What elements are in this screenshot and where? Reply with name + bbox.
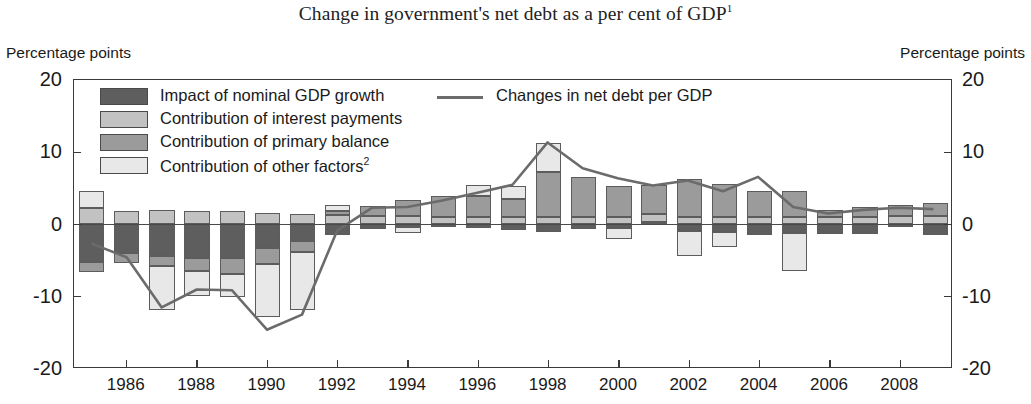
x-tick-label: 2002 — [669, 375, 707, 395]
x-tick — [548, 360, 549, 367]
y-tick-label: -20 — [962, 357, 991, 380]
x-tick-label: 1988 — [177, 375, 215, 395]
y-tick — [944, 224, 951, 225]
legend-label: Impact of nominal GDP growth — [160, 86, 384, 105]
x-tick-label: 1998 — [529, 375, 567, 395]
x-tick — [407, 360, 408, 367]
x-tick — [196, 360, 197, 367]
x-tick — [126, 360, 127, 367]
legend-swatch-icon — [100, 157, 148, 174]
y-tick-label: 10 — [962, 140, 984, 163]
y-tick-label: 20 — [962, 68, 984, 91]
title-footnote-marker: 1 — [727, 2, 733, 14]
x-tick-label: 1994 — [388, 375, 426, 395]
y-tick-label: 0 — [962, 212, 973, 235]
x-tick — [759, 360, 760, 367]
x-tick — [689, 360, 690, 367]
right-axis-caption: Percentage points — [900, 44, 1025, 62]
y-tick — [944, 152, 951, 153]
chart-title: Change in government's net debt as a per… — [0, 2, 1031, 25]
y-tick — [74, 224, 81, 225]
y-tick — [74, 152, 81, 153]
y-tick-label: -10 — [0, 284, 62, 307]
legend-label: Contribution of other factors2 — [160, 155, 369, 176]
legend-label: Contribution of interest payments — [160, 109, 402, 128]
x-tick-label: 2004 — [740, 375, 778, 395]
legend-line-icon — [437, 96, 483, 99]
y-tick-label: 10 — [0, 140, 62, 163]
chart-legend: Impact of nominal GDP growth Contributio… — [100, 86, 800, 178]
left-axis-caption: Percentage points — [6, 44, 131, 62]
y-tick-label: -20 — [0, 357, 62, 380]
x-tick — [478, 360, 479, 367]
x-tick-label: 1996 — [458, 375, 496, 395]
chart-title-text: Change in government's net debt as a per… — [299, 3, 727, 24]
y-tick-label: 20 — [0, 68, 62, 91]
y-tick — [74, 296, 81, 297]
x-tick-label: 2000 — [599, 375, 637, 395]
legend-label: Contribution of primary balance — [160, 132, 389, 151]
x-tick — [337, 360, 338, 367]
x-tick-label: 2008 — [880, 375, 918, 395]
x-tick-label: 1990 — [247, 375, 285, 395]
x-tick-label: 2006 — [810, 375, 848, 395]
legend-swatch-icon — [100, 111, 148, 128]
y-tick — [944, 296, 951, 297]
x-tick-label: 1992 — [318, 375, 356, 395]
x-tick-label: 1986 — [107, 375, 145, 395]
x-tick — [900, 360, 901, 367]
x-tick — [618, 360, 619, 367]
x-tick — [267, 360, 268, 367]
zero-axis-line — [74, 224, 951, 225]
legend-swatch-icon — [100, 134, 148, 151]
legend-swatch-icon — [100, 88, 148, 105]
y-tick-label: -10 — [962, 284, 991, 307]
legend-label: Changes in net debt per GDP — [496, 86, 712, 105]
legend-footnote-marker: 2 — [364, 155, 370, 167]
y-tick-label: 0 — [0, 212, 62, 235]
x-tick — [829, 360, 830, 367]
